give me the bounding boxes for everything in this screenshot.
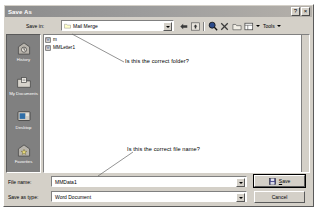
save-button-rest: ave xyxy=(282,178,290,184)
back-button[interactable] xyxy=(178,21,189,32)
places-label-favorites: Favorites xyxy=(15,159,33,164)
history-icon xyxy=(16,41,32,56)
file-name-input[interactable]: MMData1 xyxy=(51,176,247,187)
save-as-type-dropdown-arrow[interactable] xyxy=(236,193,245,202)
save-in-row: Save in: Mail Merge xyxy=(4,19,313,33)
file-list-scrollbar[interactable] xyxy=(301,35,309,172)
search-web-button[interactable] xyxy=(207,21,218,32)
dialog-title: Save As xyxy=(5,9,32,15)
annotation-filename: Is this the correct file name? xyxy=(127,146,200,152)
delete-button[interactable] xyxy=(219,21,230,32)
save-button-label: Save xyxy=(279,178,290,184)
views-icon xyxy=(244,22,254,31)
up-one-level-button[interactable] xyxy=(190,21,201,32)
file-name-value: MMData1 xyxy=(55,179,77,185)
search-icon xyxy=(208,21,218,31)
views-button[interactable] xyxy=(243,21,254,32)
places-item-history[interactable]: History xyxy=(7,41,40,72)
back-arrow-icon xyxy=(179,22,189,31)
delete-x-icon xyxy=(220,22,229,31)
folder-icon xyxy=(64,23,71,29)
save-as-screenshot: Save As ? × Save in: Mail Merge xyxy=(0,0,317,213)
close-button[interactable]: × xyxy=(301,7,310,16)
chevron-down-icon xyxy=(166,26,170,28)
new-folder-button[interactable] xyxy=(231,21,242,32)
svg-text:W: W xyxy=(46,46,50,50)
chevron-down-icon xyxy=(239,197,243,199)
places-bar: History My Documents Desktop xyxy=(6,34,41,173)
list-item-label: MMLetter1 xyxy=(53,45,75,50)
places-label-desktop: Desktop xyxy=(16,125,32,130)
places-item-favorites[interactable]: Favorites xyxy=(7,143,40,174)
save-in-value: Mail Merge xyxy=(73,23,98,29)
my-documents-icon xyxy=(16,75,32,90)
save-as-type-combobox[interactable]: Word Document xyxy=(51,191,247,202)
list-item[interactable]: W m xyxy=(45,36,309,43)
word-document-icon: W xyxy=(45,45,51,51)
cancel-button[interactable]: Cancel xyxy=(254,191,305,203)
save-as-type-value: Word Document xyxy=(55,194,91,200)
desktop-icon xyxy=(16,109,32,124)
list-item[interactable]: W MMLetter1 xyxy=(45,44,309,51)
word-document-icon: W xyxy=(45,37,51,43)
new-folder-icon xyxy=(232,22,242,31)
toolbar-separator xyxy=(203,22,205,31)
file-list[interactable]: W m W MMLetter1 xyxy=(43,34,310,173)
tools-menu-label[interactable]: Tools xyxy=(263,23,275,29)
save-as-type-label: Save as type: xyxy=(8,194,38,200)
file-name-label: File name: xyxy=(8,179,31,185)
titlebar: Save As ? × xyxy=(5,6,312,17)
favorites-icon xyxy=(16,143,32,158)
up-folder-icon xyxy=(191,22,200,31)
places-item-desktop[interactable]: Desktop xyxy=(7,109,40,140)
dialog-toolbar: Tools xyxy=(178,20,281,32)
floppy-disk-icon xyxy=(269,178,276,185)
views-dropdown-arrow[interactable] xyxy=(256,25,260,27)
save-button[interactable]: Save xyxy=(254,175,305,187)
save-in-combobox[interactable]: Mail Merge xyxy=(61,20,174,31)
chevron-down-icon xyxy=(239,182,243,184)
cancel-button-label: Cancel xyxy=(272,194,288,200)
save-as-dialog: Save As ? × Save in: Mail Merge xyxy=(3,4,314,207)
dialog-footer: File name: MMData1 Save as type: Word Do… xyxy=(6,175,311,206)
titlebar-buttons: ? × xyxy=(291,7,310,16)
places-label-history: History xyxy=(17,57,30,62)
tools-dropdown-arrow[interactable] xyxy=(277,25,281,27)
svg-text:W: W xyxy=(46,38,50,42)
save-in-label: Save in: xyxy=(26,23,44,29)
list-item-label: m xyxy=(53,37,57,42)
places-item-my-documents[interactable]: My Documents xyxy=(7,75,40,106)
save-in-dropdown-arrow[interactable] xyxy=(163,22,172,31)
help-button[interactable]: ? xyxy=(291,7,300,16)
file-name-dropdown-arrow[interactable] xyxy=(236,178,245,187)
annotation-folder: Is this the correct folder? xyxy=(125,58,189,64)
places-label-my-documents: My Documents xyxy=(9,91,38,96)
